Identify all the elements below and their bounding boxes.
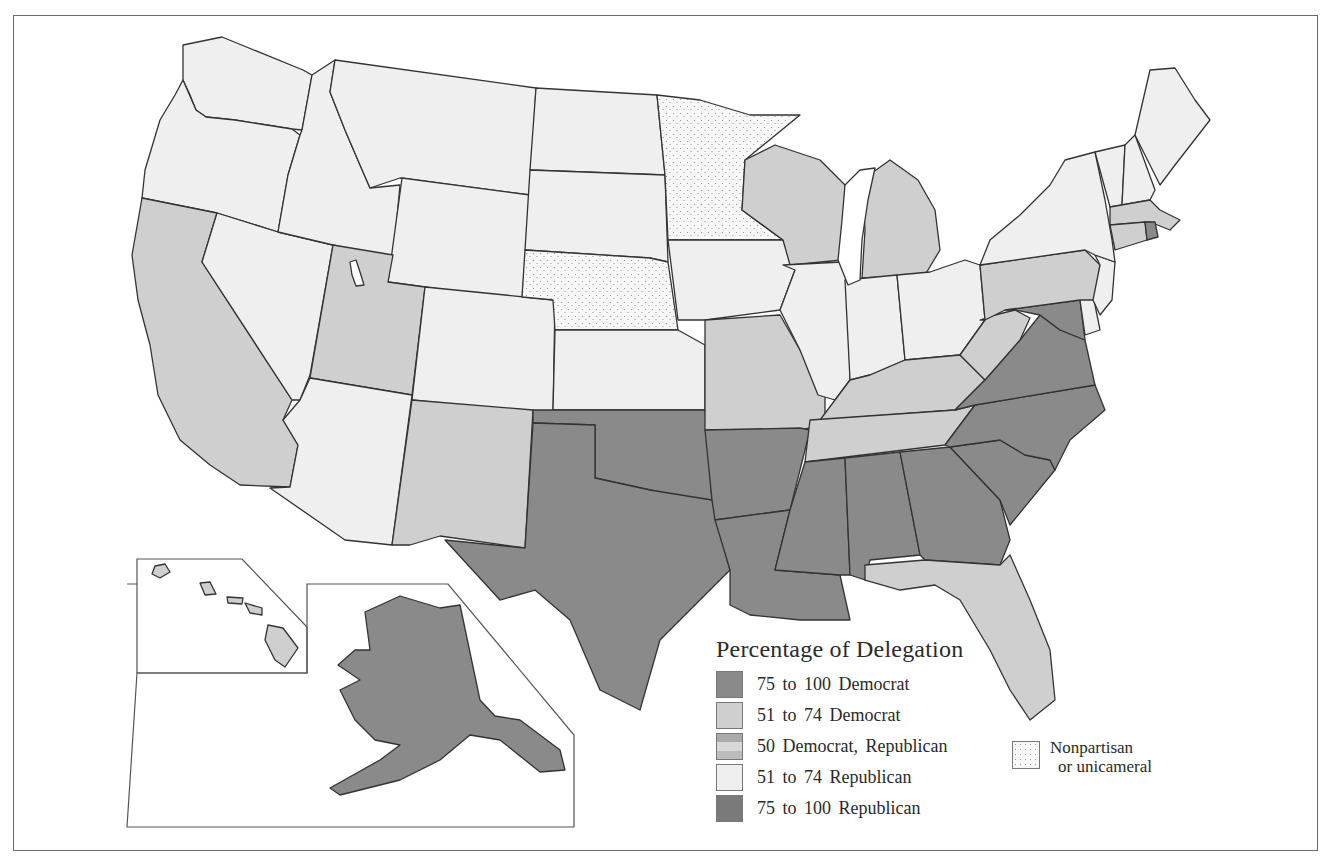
- legend-label: 75 to 100 Republican: [757, 798, 920, 819]
- legend-label: 51 to 74 Republican: [757, 767, 911, 788]
- state-michigan: [862, 160, 940, 278]
- legend: Percentage of Delegation 75 to 100 Democ…: [716, 636, 963, 824]
- state-south-dakota: [525, 170, 668, 262]
- state-rhode-island: [1145, 222, 1158, 240]
- legend-label: 75 to 100 Democrat: [757, 674, 909, 695]
- legend-item-dem-51-74: 51 to 74 Democrat: [716, 700, 963, 731]
- nonpartisan-line2: or unicameral: [1050, 757, 1152, 776]
- swatch-dem-75-100: [716, 671, 743, 698]
- swatch-rep-51-74: [716, 764, 743, 791]
- swatch-rep-75-100: [716, 795, 743, 822]
- state-new-mexico: [392, 400, 533, 548]
- state-colorado: [412, 287, 555, 415]
- state-kansas: [553, 330, 705, 410]
- state-north-dakota: [530, 88, 665, 175]
- state-alaska: [330, 596, 565, 795]
- us-map: [0, 0, 1331, 864]
- state-iowa: [668, 240, 795, 320]
- hawaii: [152, 564, 298, 667]
- legend-item-dem-75-100: 75 to 100 Democrat: [716, 669, 963, 700]
- swatch-nonpartisan: [1012, 741, 1040, 769]
- state-new-york: [980, 152, 1115, 265]
- state-wyoming: [388, 178, 530, 300]
- nonpartisan-label: Nonpartisan or unicameral: [1050, 738, 1152, 776]
- legend-title: Percentage of Delegation: [716, 636, 963, 663]
- nonpartisan-line1: Nonpartisan: [1050, 738, 1152, 757]
- legend-item-nonpartisan: Nonpartisan or unicameral: [1012, 738, 1152, 776]
- legend-item-rep-51-74: 51 to 74 Republican: [716, 762, 963, 793]
- swatch-even-split: [716, 733, 743, 760]
- legend-item-rep-75-100: 75 to 100 Republican: [716, 793, 963, 824]
- legend-item-even-split: 50 Democrat, Republican: [716, 731, 963, 762]
- state-connecticut: [1110, 222, 1147, 250]
- legend-label: 51 to 74 Democrat: [757, 705, 900, 726]
- legend-label: 50 Democrat, Republican: [757, 736, 947, 757]
- swatch-dem-51-74: [716, 702, 743, 729]
